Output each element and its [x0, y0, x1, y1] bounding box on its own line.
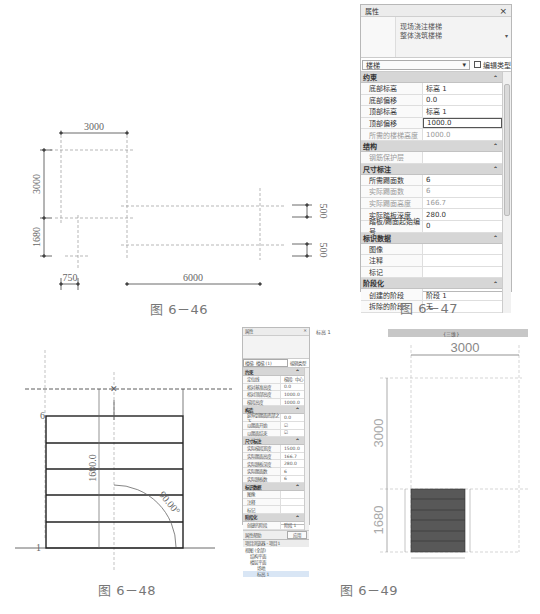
section-header[interactable]: 标识数据⌃ [361, 233, 502, 244]
section-title: 阶段化 [245, 514, 257, 520]
property-value[interactable]: 1500.0 [281, 445, 304, 452]
scrollbar[interactable] [502, 72, 511, 313]
collapse-icon[interactable]: ⌃ [295, 437, 304, 444]
close-icon[interactable]: × [499, 6, 507, 16]
type-selector[interactable] [243, 336, 309, 359]
property-value[interactable]: 6 [423, 175, 502, 186]
apply-button[interactable]: 应用 [287, 531, 307, 539]
property-value[interactable] [281, 499, 304, 506]
property-value[interactable]: 6 [281, 468, 304, 475]
property-label: 标记 [361, 267, 423, 278]
svg-text:1: 1 [36, 542, 41, 553]
property-label: 实际踢面数 [243, 468, 281, 475]
property-label: 踏板/踢面起始编号 [361, 221, 423, 232]
property-label: 底部标高 [361, 83, 423, 94]
section-header[interactable]: 结构⌃ [361, 141, 502, 152]
property-value[interactable]: 标高 1 [423, 83, 502, 94]
property-row: 注释 [243, 499, 304, 507]
property-value[interactable]: 梯段: 中心 [281, 376, 304, 383]
property-value[interactable] [281, 491, 304, 498]
property-value[interactable]: 0.0 [281, 414, 304, 421]
property-value[interactable]: ☑ [281, 422, 304, 429]
section-header[interactable]: 尺寸标注⌃ [243, 437, 304, 445]
instance-filter-dropdown[interactable]: 楼梯: 楼梯 (1) [243, 359, 288, 367]
chevron-down-icon: ▾ [462, 61, 466, 69]
collapse-icon[interactable]: ⌃ [295, 514, 304, 521]
property-value[interactable]: 280.0 [423, 209, 502, 220]
collapse-icon[interactable]: ⌃ [295, 406, 304, 413]
property-row: 延伸到踢面底部之下0.0 [243, 414, 304, 422]
property-label: 底部偏移 [361, 95, 423, 106]
property-value[interactable]: ☑ [281, 430, 304, 437]
property-value[interactable]: 1000.0 [281, 391, 304, 398]
section-header[interactable]: 阶段化⌃ [243, 514, 304, 522]
section-header[interactable]: 约束⌃ [361, 72, 502, 83]
property-row: 以踢面开始☑ [243, 422, 304, 430]
edit-type-label: 编辑类型 [483, 60, 511, 70]
svg-text:3000: 3000 [31, 174, 42, 194]
property-value: 166.7 [423, 198, 502, 209]
chevron-down-icon[interactable]: ▾ [505, 31, 508, 40]
property-value[interactable]: 6 [281, 476, 304, 483]
property-label: 实际踏板深度 [243, 460, 281, 467]
scrollbar[interactable] [304, 368, 309, 530]
browser-item[interactable]: 标高 1 [243, 571, 309, 577]
property-row: 所需踢面数6 [361, 175, 502, 187]
instance-filter-dropdown[interactable]: 楼梯 ▾ [362, 60, 470, 70]
close-icon[interactable]: × [303, 328, 307, 335]
property-value[interactable]: 标高 1 [423, 106, 502, 117]
property-label: 图像 [243, 491, 281, 498]
property-row: 实际踢面数6 [361, 186, 502, 198]
property-value[interactable]: 166.7 [281, 453, 304, 460]
dropdown-value: 楼梯 [366, 60, 380, 70]
property-value[interactable] [423, 255, 502, 266]
collapse-icon[interactable]: ⌃ [295, 368, 304, 375]
view-tab-3d[interactable]: {三维} [388, 329, 528, 337]
fig48-caption: 图 6－48 [98, 580, 156, 599]
property-row: 实际踢面高度166.7 [243, 453, 304, 461]
collapse-icon[interactable]: ⌃ [493, 165, 502, 172]
property-value: 6 [423, 186, 502, 197]
property-label: 实际梯段宽度 [243, 445, 281, 452]
property-value[interactable]: 阶段 1 [281, 522, 304, 529]
property-label: 图像 [361, 244, 423, 255]
properties-help-link[interactable]: 属性帮助 [245, 532, 261, 538]
svg-text:3000: 3000 [451, 340, 480, 355]
edit-type-button[interactable]: 编辑类型 [471, 60, 511, 70]
collapse-icon[interactable]: ⌃ [295, 483, 304, 490]
section-title: 标识数据 [363, 233, 391, 243]
section-header[interactable]: 约束⌃ [243, 368, 304, 376]
tab-level-1[interactable]: 标高 1 [310, 328, 331, 335]
property-label: 注释 [243, 499, 281, 506]
collapse-icon[interactable]: ⌃ [493, 280, 502, 287]
collapse-icon[interactable]: ⌃ [493, 234, 502, 241]
panel-title-bar: 属性 × [361, 5, 511, 17]
property-value[interactable] [281, 506, 304, 513]
collapse-icon[interactable]: ⌃ [493, 74, 502, 81]
property-row: 创建的阶段阶段 1 [243, 522, 304, 530]
section-header[interactable]: 标识数据⌃ [243, 483, 304, 491]
property-value [423, 152, 502, 163]
property-value[interactable]: 1000.0 [281, 399, 304, 406]
type-selector[interactable]: 现场浇注楼梯 整体浇筑楼梯 ▾ [361, 17, 511, 58]
property-row: 相对顶部高度1000.0 [243, 391, 304, 399]
svg-text:500: 500 [318, 243, 329, 258]
fig46-caption: 图 6－46 [150, 299, 208, 318]
property-row: 图像 [243, 491, 304, 499]
property-value[interactable] [423, 267, 502, 278]
scrollbar-thumb[interactable] [504, 84, 510, 216]
property-value[interactable]: 0 [423, 221, 502, 232]
section-header[interactable]: 阶段化⌃ [361, 278, 502, 289]
property-value[interactable]: 0.0 [281, 384, 304, 391]
property-row: 注释 [361, 255, 502, 267]
property-value[interactable] [423, 244, 502, 255]
collapse-icon[interactable]: ⌃ [493, 142, 502, 149]
property-label: 相对顶部高度 [243, 391, 281, 398]
section-header[interactable]: 尺寸标注⌃ [361, 164, 502, 175]
property-value[interactable]: 0.0 [423, 95, 502, 106]
edit-type-button[interactable]: 编辑类型 [288, 360, 306, 366]
property-label: 所需的楼梯高度 [361, 129, 423, 140]
property-value[interactable]: 1000.0 [423, 118, 502, 129]
fig46-drawing: 3000 3000 1680 750 6000 500 500 [0, 100, 360, 300]
property-value[interactable]: 280.0 [281, 460, 304, 467]
